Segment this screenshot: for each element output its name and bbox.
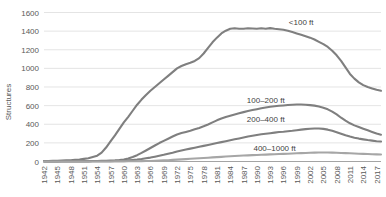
- x-tick-label: 1987: [240, 165, 249, 183]
- x-tick-label: 2017: [373, 165, 382, 183]
- x-tick-label: 1990: [253, 165, 262, 183]
- y-tick-label: 1000: [21, 64, 39, 73]
- x-tick-label: 2005: [319, 165, 328, 183]
- series-label-1: <100 ft: [289, 18, 314, 27]
- x-tick-label: 1957: [107, 165, 116, 183]
- x-tick-label: 1969: [160, 165, 169, 183]
- x-tick-label: 2011: [346, 165, 355, 183]
- x-tick-label: 1942: [40, 165, 49, 183]
- y-tick-label: 1200: [21, 46, 39, 55]
- x-tick-label: 1993: [266, 165, 275, 183]
- x-tick-label: 1999: [293, 165, 302, 183]
- chart-container: 02004006008001000120014001600 1942194519…: [0, 0, 386, 197]
- x-tick-label: 1948: [67, 165, 76, 183]
- y-tick-label: 0: [35, 158, 40, 167]
- y-tick-label: 1400: [21, 27, 39, 36]
- y-tick-label: 800: [26, 83, 40, 92]
- x-tick-label: 1972: [173, 165, 182, 183]
- y-tick-label: 1600: [21, 9, 39, 18]
- series-label-4: 400–1000 ft: [253, 144, 296, 153]
- x-tick-label: 2002: [306, 165, 315, 183]
- x-tick-label: 1945: [53, 165, 62, 183]
- y-tick-label: 600: [26, 102, 40, 111]
- series-line-1: [44, 28, 381, 161]
- x-tick-label: 1978: [200, 165, 209, 183]
- line-chart: 02004006008001000120014001600 1942194519…: [0, 0, 386, 197]
- y-axis-tick-labels: 02004006008001000120014001600: [21, 9, 39, 167]
- y-axis-title: Structures: [4, 84, 13, 120]
- x-tick-label: 1975: [186, 165, 195, 183]
- y-tick-label: 400: [26, 120, 40, 129]
- x-tick-label: 1954: [93, 165, 102, 183]
- x-tick-label: 1984: [226, 165, 235, 183]
- y-tick-label: 200: [26, 139, 40, 148]
- x-tick-label: 1966: [146, 165, 155, 183]
- x-tick-label: 1963: [133, 165, 142, 183]
- series-label-3: 200–400 ft: [247, 115, 286, 124]
- x-tick-label: 2014: [359, 165, 368, 183]
- x-tick-label: 1951: [80, 165, 89, 183]
- x-tick-label: 2008: [333, 165, 342, 183]
- x-tick-label: 1960: [120, 165, 129, 183]
- x-axis-tick-labels: 1942194519481951195419571960196319661969…: [40, 165, 382, 183]
- data-series-group: [44, 28, 381, 161]
- x-tick-label: 1981: [213, 165, 222, 183]
- x-tick-label: 1996: [279, 165, 288, 183]
- series-label-2: 100–200 ft: [247, 96, 286, 105]
